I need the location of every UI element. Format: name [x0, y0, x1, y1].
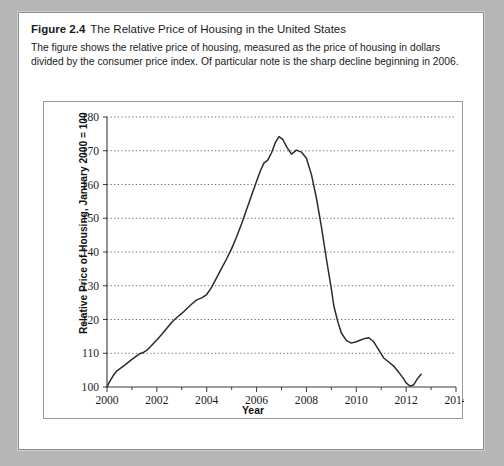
- x-axis-ticks-group: 20002002200420062008201020122014: [95, 387, 464, 407]
- y-tick-label: 100: [82, 381, 100, 394]
- figure-number: Figure 2.4: [31, 23, 85, 35]
- gridlines-group: [107, 117, 456, 353]
- figure-caption-block: Figure 2.4The Relative Price of Housing …: [31, 22, 477, 68]
- y-tick-label: 110: [82, 347, 99, 360]
- figure-title: Figure 2.4The Relative Price of Housing …: [31, 22, 477, 37]
- housing-price-line: [107, 137, 421, 387]
- chart-plot-area: 100110120130140150160170180 200020022004…: [43, 101, 463, 419]
- figure-card: Figure 2.4The Relative Price of Housing …: [18, 12, 484, 450]
- y-axis-label: Relative Price of Housing, January 2000 …: [78, 112, 89, 334]
- line-chart-svg: 100110120130140150160170180 200020022004…: [44, 102, 464, 420]
- figure-description: The figure shows the relative price of h…: [31, 41, 475, 68]
- figure-title-text: The Relative Price of Housing in the Uni…: [90, 23, 346, 35]
- x-axis-label: Year: [44, 405, 462, 416]
